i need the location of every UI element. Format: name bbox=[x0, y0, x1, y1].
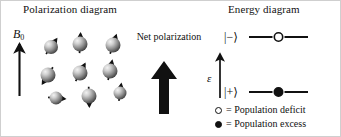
net-polarization-arrow bbox=[151, 61, 177, 114]
spin-sphere bbox=[73, 37, 88, 52]
spin-sphere bbox=[50, 92, 63, 105]
spin-sphere bbox=[41, 68, 56, 83]
population-deficit-marker bbox=[274, 33, 282, 41]
spin-6 bbox=[103, 61, 118, 80]
spin-2 bbox=[73, 34, 88, 53]
spin-sphere bbox=[82, 89, 97, 104]
spin-sphere bbox=[114, 87, 127, 100]
spin-3 bbox=[106, 35, 121, 53]
spin-sphere bbox=[44, 40, 58, 54]
population-excess-marker bbox=[274, 88, 282, 96]
spin-4 bbox=[41, 67, 56, 83]
spin-9 bbox=[114, 84, 127, 101]
spin-7 bbox=[48, 92, 65, 105]
spin-ensemble bbox=[41, 34, 127, 106]
spin-8 bbox=[82, 87, 97, 106]
energy-level-1 bbox=[249, 33, 308, 41]
spin-1 bbox=[44, 39, 58, 54]
spin-sphere bbox=[73, 66, 88, 81]
energy-levels bbox=[249, 33, 308, 96]
spin-sphere bbox=[103, 64, 118, 79]
diagram-artwork bbox=[1, 1, 341, 137]
spin-sphere bbox=[106, 38, 121, 53]
energy-level-2 bbox=[249, 88, 308, 96]
spin-5 bbox=[73, 64, 88, 81]
figure-canvas: Polarization diagram Energy diagram B0 N… bbox=[1, 1, 340, 136]
